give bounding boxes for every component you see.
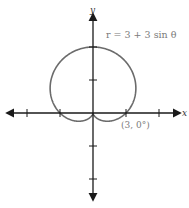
point-annotation: (3, 0°) bbox=[121, 120, 150, 130]
x-axis-label: x bbox=[182, 108, 187, 118]
y-axis-label: y bbox=[89, 5, 96, 15]
polar-graph: y x r = 3 + 3 sin θ (3, 0°) bbox=[0, 0, 189, 208]
equation-label: r = 3 + 3 sin θ bbox=[106, 29, 177, 40]
